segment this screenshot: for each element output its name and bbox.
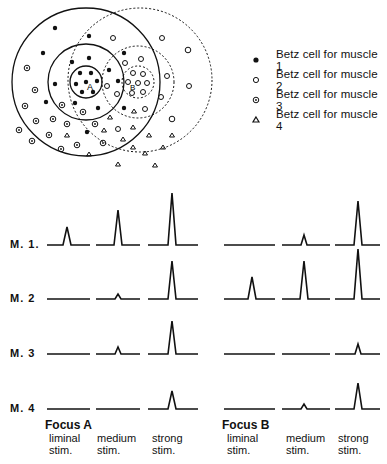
response-trace: [335, 249, 380, 299]
focus-b-medium-label: medium stim.: [286, 432, 325, 456]
muscle-1-cells: [41, 26, 126, 134]
focus-b-liminal-label: liminal stim.: [227, 432, 258, 456]
response-trace: [148, 193, 198, 245]
response-trace: [282, 261, 330, 299]
response-trace: [335, 344, 380, 354]
focus-b-strong-label: strong stim.: [338, 432, 369, 456]
legend-item-muscle-2: Betz cell for muscle 2: [250, 70, 387, 90]
legend-item-muscle-1: Betz cell for muscle 1: [250, 50, 387, 70]
focus-a-liminal-label: liminal stim.: [49, 432, 80, 456]
focus-a-title: Focus A: [45, 418, 92, 432]
focus-a-strong-label: strong stim.: [152, 432, 183, 456]
response-trace: [47, 227, 90, 245]
legend: Betz cell for muscle 1 Betz cell for mus…: [250, 50, 387, 130]
response-trace: [282, 404, 330, 409]
legend-item-muscle-4: Betz cell for muscle 4: [250, 110, 387, 130]
response-trace: [335, 201, 380, 245]
filled-dot-icon: [250, 54, 262, 66]
response-trace: [96, 347, 140, 354]
row-label-m1: M. 1.: [10, 238, 39, 250]
dotted-circle-icon: [250, 94, 262, 106]
response-trace: [148, 391, 198, 409]
focus-b-title: Focus B: [222, 418, 269, 432]
focus-a-medium-label: medium stim.: [97, 432, 136, 456]
muscle-3-cells: [16, 65, 106, 152]
response-trace: [335, 383, 380, 409]
muscle-4-cells: [65, 109, 175, 167]
response-trace: [96, 294, 140, 299]
legend-label: Betz cell for muscle 4: [276, 108, 387, 132]
response-trace: [282, 235, 330, 245]
muscle-2-cells: [105, 36, 192, 132]
legend-item-muscle-3: Betz cell for muscle 3: [250, 90, 387, 110]
open-circle-icon: [250, 74, 262, 86]
response-trace: [224, 277, 275, 299]
row-label-m4: M. 4: [10, 402, 35, 414]
response-traces: [47, 193, 380, 409]
row-label-m2: M. 2: [10, 292, 35, 304]
response-trace: [148, 321, 198, 354]
response-trace: [96, 210, 140, 245]
response-trace: [148, 261, 198, 299]
triangle-icon: [250, 114, 262, 126]
row-label-m3: M. 3: [10, 347, 35, 359]
focus-b-circles: [68, 8, 212, 152]
